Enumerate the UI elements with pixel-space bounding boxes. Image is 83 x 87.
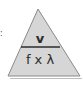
formula-triangle: v f x λ	[0, 0, 83, 87]
triangle-shadow	[10, 78, 82, 79]
numerator-v: v	[36, 31, 45, 46]
denominator-f-x-lambda: f x λ	[26, 52, 55, 67]
